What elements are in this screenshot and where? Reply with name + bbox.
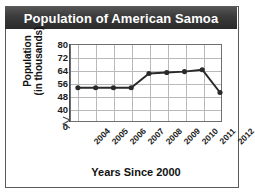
data-series-line: [71, 45, 221, 121]
x-tick-2012: 2012: [236, 126, 246, 146]
plot-area: [70, 44, 222, 122]
x-tick-2005: 2005: [110, 126, 130, 146]
x-tick-2010: 2010: [200, 126, 220, 146]
y-axis-title-line1: Population: [22, 1, 33, 121]
data-point-2006: [111, 85, 116, 90]
y-tick-40: 40: [57, 104, 68, 115]
y-tick-48: 48: [57, 91, 68, 102]
data-point-2005: [93, 85, 98, 90]
x-axis-tick-labels: 2004 2005 2006 2007 2008 2009 2010 2011 …: [70, 124, 225, 156]
data-point-2009: [164, 70, 169, 75]
y-tick-72: 72: [57, 52, 68, 63]
y-tick-56: 56: [57, 78, 68, 89]
data-point-2008: [146, 71, 151, 76]
data-point-2007: [129, 85, 134, 90]
x-tick-2008: 2008: [164, 126, 184, 146]
y-tick-80: 80: [57, 39, 68, 50]
data-point-2004: [75, 85, 80, 90]
x-axis-title: Years Since 2000: [46, 166, 226, 178]
chart-plot-wrapper: Population (in thousands) 80 72 64 56 48…: [0, 0, 246, 196]
x-tick-2004: 2004: [92, 126, 112, 146]
x-tick-2007: 2007: [146, 126, 166, 146]
y-tick-64: 64: [57, 65, 68, 76]
x-tick-2011: 2011: [217, 126, 237, 146]
data-point-2012: [217, 90, 222, 95]
data-point-2011: [200, 67, 205, 72]
x-tick-2006: 2006: [128, 126, 148, 146]
data-point-2010: [182, 69, 187, 74]
population-markers: [75, 67, 222, 95]
x-tick-2009: 2009: [182, 126, 202, 146]
